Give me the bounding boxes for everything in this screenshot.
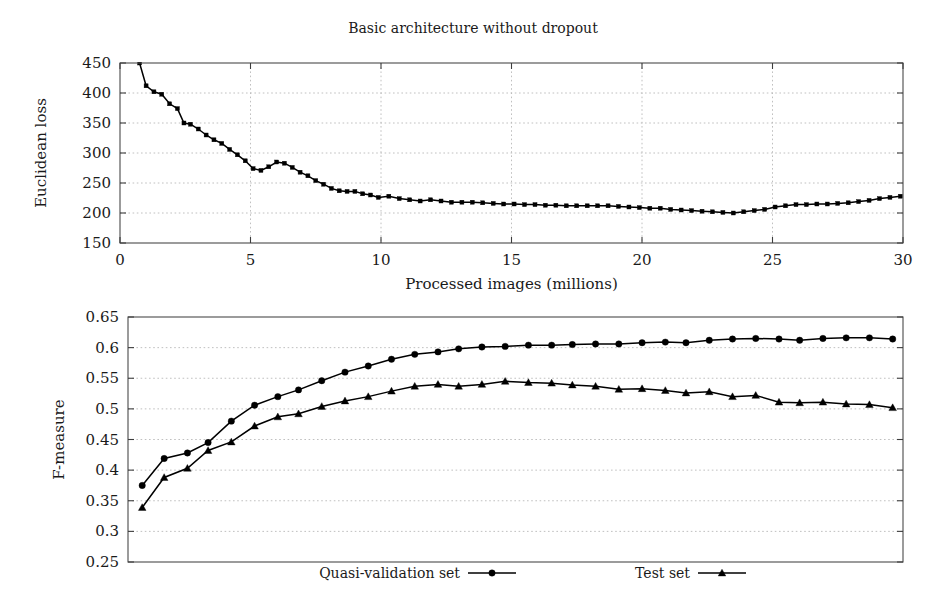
chart-canvas: Basic architecture without dropout150200… <box>0 0 947 603</box>
data-point-12 <box>412 351 418 357</box>
data-point-8 <box>196 127 200 131</box>
data-point-13 <box>435 349 441 355</box>
data-point-22 <box>306 174 310 178</box>
data-point-24 <box>322 182 326 186</box>
data-point-48 <box>554 203 558 207</box>
data-point-15 <box>479 344 485 350</box>
data-point-60 <box>679 208 683 212</box>
data-point-40 <box>470 200 474 204</box>
data-point-22 <box>639 340 645 346</box>
data-point-29 <box>796 337 802 343</box>
legend-label-1: Test set <box>635 565 690 581</box>
x-tick-label: 25 <box>763 251 782 269</box>
data-point-42 <box>491 201 495 205</box>
data-point-19 <box>569 341 575 347</box>
data-point-9 <box>342 369 348 375</box>
data-point-6 <box>275 393 281 399</box>
data-point-8 <box>319 378 325 384</box>
data-point-41 <box>481 201 485 205</box>
y-tick-label: 300 <box>82 144 111 162</box>
y-tick-label: 0.25 <box>86 553 119 571</box>
data-point-14 <box>455 346 461 352</box>
x-tick-label: 15 <box>502 251 521 269</box>
data-point-2 <box>184 450 190 456</box>
data-point-19 <box>282 161 286 165</box>
y-tick-label: 0.65 <box>86 308 119 326</box>
y-axis-title: F-measure <box>50 399 68 479</box>
data-point-38 <box>449 200 453 204</box>
y-tick-label: 250 <box>82 174 111 192</box>
data-point-70 <box>784 204 788 208</box>
data-point-51 <box>585 204 589 208</box>
data-point-5 <box>175 107 179 111</box>
data-point-7 <box>295 387 301 393</box>
data-point-78 <box>867 198 871 202</box>
data-point-66 <box>742 210 746 214</box>
data-point-55 <box>627 205 631 209</box>
data-point-39 <box>460 200 464 204</box>
data-point-47 <box>543 203 547 207</box>
data-point-69 <box>773 205 777 209</box>
data-point-10 <box>212 138 216 142</box>
panel-f-measure: 0.250.30.350.40.450.50.550.60.65F-measur… <box>50 308 903 571</box>
legend-label-0: Quasi-validation set <box>319 565 460 581</box>
data-point-24 <box>683 340 689 346</box>
data-point-4 <box>168 102 172 106</box>
data-point-14 <box>243 159 247 163</box>
data-point-30 <box>369 193 373 197</box>
data-point-71 <box>794 203 798 207</box>
chart-title: Basic architecture without dropout <box>348 20 598 36</box>
data-point-31 <box>376 195 380 199</box>
series-path <box>142 338 892 486</box>
data-point-4 <box>228 418 234 424</box>
data-point-37 <box>439 199 443 203</box>
x-tick-label: 10 <box>371 251 390 269</box>
data-point-17 <box>525 342 531 348</box>
y-tick-label: 350 <box>82 114 111 132</box>
data-point-1 <box>161 455 167 461</box>
data-point-56 <box>637 206 641 210</box>
data-point-15 <box>251 167 255 171</box>
data-point-73 <box>815 202 819 206</box>
data-point-3 <box>205 439 211 445</box>
data-point-67 <box>752 209 756 213</box>
data-point-33 <box>889 336 895 342</box>
data-point-63 <box>710 210 714 214</box>
data-point-36 <box>429 198 433 202</box>
data-point-57 <box>648 206 652 210</box>
data-point-28 <box>776 336 782 342</box>
data-point-30 <box>820 335 826 341</box>
data-point-79 <box>878 197 882 201</box>
data-point-5 <box>251 402 257 408</box>
y-tick-label: 150 <box>82 234 111 252</box>
data-point-76 <box>846 201 850 205</box>
data-point-9 <box>204 133 208 137</box>
data-point-16 <box>259 168 263 172</box>
data-point-64 <box>721 210 725 214</box>
data-point-21 <box>616 341 622 347</box>
data-point-53 <box>606 204 610 208</box>
data-point-31 <box>843 335 849 341</box>
data-point-17 <box>267 165 271 169</box>
data-point-80 <box>888 195 892 199</box>
data-point-45 <box>523 203 527 207</box>
data-point-10 <box>365 363 371 369</box>
data-point-58 <box>658 206 662 210</box>
data-point-legend-0 <box>489 570 495 576</box>
data-point-65 <box>731 211 735 215</box>
data-point-81 <box>898 194 902 198</box>
series-euclidean-loss <box>138 61 903 215</box>
data-point-21 <box>298 170 302 174</box>
y-tick-label: 0.55 <box>86 369 119 387</box>
data-point-11 <box>220 141 224 145</box>
data-point-74 <box>825 202 829 206</box>
data-point-27 <box>345 189 349 193</box>
data-point-32 <box>387 194 391 198</box>
data-point-23 <box>662 339 668 345</box>
y-tick-label: 200 <box>82 204 111 222</box>
x-axis-title: Processed images (millions) <box>405 275 618 293</box>
chart-legend: Quasi-validation setTest set <box>319 565 746 581</box>
data-point-46 <box>533 203 537 207</box>
data-point-18 <box>548 342 554 348</box>
y-tick-label: 450 <box>82 54 111 72</box>
